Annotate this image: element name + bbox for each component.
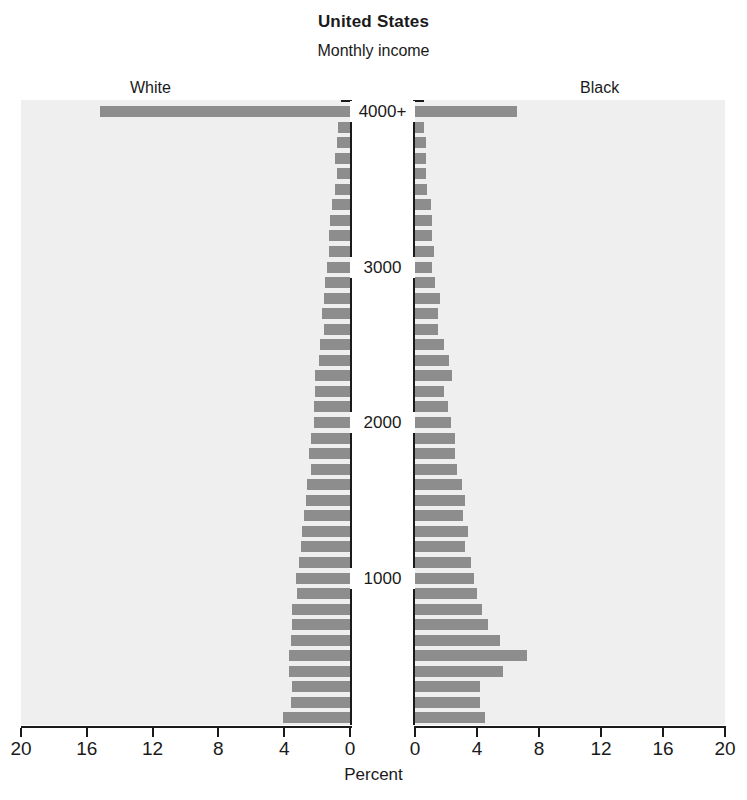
bar-white (311, 464, 350, 475)
bar-white (330, 215, 350, 226)
bar-black (415, 246, 434, 257)
x-tick-mark (414, 728, 416, 737)
bar-black (415, 339, 444, 350)
x-tick-label-right-20: 20 (705, 738, 745, 760)
x-axis-left (21, 726, 352, 728)
bar-black (415, 370, 452, 381)
x-tick-label-right-16: 16 (643, 738, 683, 760)
bar-white (325, 277, 350, 288)
bar-white (329, 230, 350, 241)
bar-white (335, 184, 350, 195)
page-title: United States (0, 12, 747, 32)
bar-black (415, 433, 455, 444)
bar-white (315, 386, 350, 397)
x-tick-label-left-0: 0 (330, 738, 370, 760)
x-tick-mark (86, 728, 88, 737)
bar-white (291, 697, 350, 708)
x-tick-label-right-12: 12 (581, 738, 621, 760)
income-axis: 4000+300020001000 (350, 100, 415, 725)
x-tick-label-left-12: 12 (133, 738, 173, 760)
bar-black (415, 448, 455, 459)
bar-black (415, 495, 465, 506)
bar-black (415, 153, 426, 164)
plot-panel-black (415, 100, 725, 725)
x-tick-mark (600, 728, 602, 737)
bar-white (292, 681, 350, 692)
bar-white (306, 495, 350, 506)
x-tick-label-right-4: 4 (457, 738, 497, 760)
bar-white (337, 137, 350, 148)
bar-black (415, 526, 468, 537)
bar-black (415, 464, 457, 475)
bar-black (415, 541, 465, 552)
bar-black (415, 650, 527, 661)
bar-white (302, 526, 350, 537)
bar-white (299, 557, 350, 568)
bar-white (337, 168, 350, 179)
bar-black (415, 557, 471, 568)
bar-black (415, 137, 426, 148)
bar-white (338, 122, 350, 133)
income-tick-2000: 2000 (350, 412, 415, 433)
x-tick-label-right-0: 0 (395, 738, 435, 760)
bar-white (324, 324, 350, 335)
bar-white (296, 573, 350, 584)
bar-black (415, 417, 451, 428)
x-tick-mark (152, 728, 154, 737)
x-tick-mark (217, 728, 219, 737)
bar-white (283, 712, 350, 723)
income-tick-4000plus: 4000+ (350, 101, 415, 122)
income-tick-1000: 1000 (350, 568, 415, 589)
chart-subtitle: Monthly income (0, 42, 747, 60)
bar-white (320, 339, 350, 350)
bar-white (319, 355, 350, 366)
x-tick-mark (20, 728, 22, 737)
bar-white (324, 293, 350, 304)
bar-black (415, 277, 435, 288)
bar-black (415, 666, 503, 677)
x-tick-mark (349, 728, 351, 737)
x-tick-label-left-8: 8 (198, 738, 238, 760)
bar-black (415, 184, 427, 195)
bar-black (415, 681, 480, 692)
bar-white (329, 246, 350, 257)
x-tick-mark (662, 728, 664, 737)
bar-white (322, 308, 350, 319)
x-axis-right (414, 726, 726, 728)
bar-black (415, 355, 449, 366)
x-tick-mark (538, 728, 540, 737)
bar-white (314, 401, 350, 412)
bar-white (335, 153, 350, 164)
bar-white (309, 448, 350, 459)
bar-black (415, 215, 432, 226)
bar-white (327, 262, 350, 273)
bar-black (415, 308, 438, 319)
bar-white (314, 417, 350, 428)
chart-root: United States Monthly income White Black… (0, 0, 747, 800)
x-axis-label: Percent (0, 765, 747, 785)
x-tick-mark (476, 728, 478, 737)
bar-black (415, 230, 432, 241)
plot-panel-white (21, 100, 350, 725)
bar-black (415, 324, 438, 335)
bar-black (415, 697, 480, 708)
bar-black (415, 635, 500, 646)
bar-white (315, 370, 350, 381)
series-label-white: White (130, 79, 171, 97)
x-tick-mark (283, 728, 285, 737)
bar-black (415, 510, 463, 521)
bar-black (415, 262, 432, 273)
bar-black (415, 199, 431, 210)
bar-white (289, 666, 350, 677)
bar-black (415, 293, 440, 304)
series-label-black: Black (580, 79, 619, 97)
bar-black (415, 401, 448, 412)
bar-black (415, 573, 474, 584)
bar-black (415, 479, 462, 490)
bar-black (415, 168, 426, 179)
bar-white (297, 588, 350, 599)
income-tick-3000: 3000 (350, 257, 415, 278)
bar-white (292, 604, 350, 615)
bar-black (415, 588, 477, 599)
x-tick-label-left-20: 20 (1, 738, 41, 760)
